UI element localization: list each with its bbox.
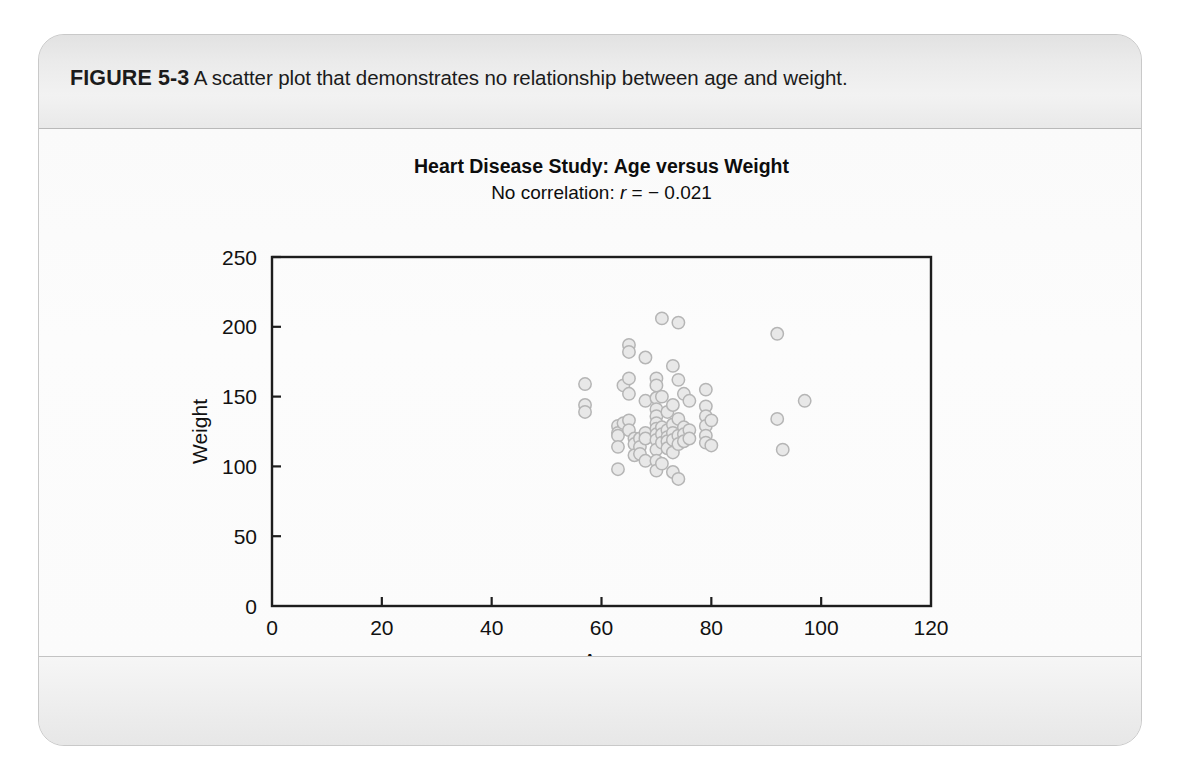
data-point xyxy=(705,414,717,426)
data-point xyxy=(672,473,684,485)
data-point xyxy=(667,360,679,372)
data-point xyxy=(639,351,651,363)
data-point xyxy=(798,395,810,407)
figure-card: FIGURE 5-3 A scatter plot that demonstra… xyxy=(38,34,1142,746)
data-point xyxy=(656,312,668,324)
data-point xyxy=(705,439,717,451)
data-point xyxy=(771,413,783,425)
data-point xyxy=(656,390,668,402)
figure-number-label: FIGURE 5-3 xyxy=(70,66,189,90)
data-point xyxy=(656,457,668,469)
x-axis-tick-label: 40 xyxy=(480,616,503,639)
data-point xyxy=(771,328,783,340)
data-point xyxy=(672,316,684,328)
x-axis-title: Age xyxy=(583,649,620,656)
y-axis-tick-label: 150 xyxy=(222,385,257,408)
x-axis-tick-label: 100 xyxy=(804,616,839,639)
data-point xyxy=(579,406,591,418)
scatter-plot-svg: Heart Disease Study: Age versus WeightNo… xyxy=(39,129,1142,656)
figure-caption-band: FIGURE 5-3 A scatter plot that demonstra… xyxy=(39,35,1141,129)
chart-title: Heart Disease Study: Age versus Weight xyxy=(414,155,789,177)
scatter-plot: Heart Disease Study: Age versus WeightNo… xyxy=(39,129,1142,656)
data-point xyxy=(683,395,695,407)
data-point xyxy=(612,441,624,453)
figure-plot-band: Heart Disease Study: Age versus WeightNo… xyxy=(39,129,1141,657)
data-point xyxy=(777,443,789,455)
data-point xyxy=(612,463,624,475)
data-point xyxy=(623,372,635,384)
x-axis-tick-label: 0 xyxy=(266,616,278,639)
y-axis-tick-label: 0 xyxy=(245,595,257,618)
x-axis-tick-label: 60 xyxy=(590,616,613,639)
plot-frame xyxy=(272,257,931,606)
y-axis-title: Weight xyxy=(188,399,211,464)
x-axis-tick-label: 120 xyxy=(913,616,948,639)
data-point xyxy=(623,346,635,358)
y-axis-tick-label: 50 xyxy=(234,525,257,548)
x-axis-tick-label: 20 xyxy=(370,616,393,639)
data-point xyxy=(683,432,695,444)
data-point xyxy=(623,388,635,400)
data-point xyxy=(672,374,684,386)
x-axis-tick-label: 80 xyxy=(700,616,723,639)
figure-caption-text: A scatter plot that demonstrates no rela… xyxy=(189,66,847,89)
data-point xyxy=(700,383,712,395)
y-axis-tick-label: 100 xyxy=(222,455,257,478)
data-point xyxy=(579,378,591,390)
figure-footer-band xyxy=(39,657,1141,745)
y-axis-tick-label: 250 xyxy=(222,246,257,269)
figure-caption: FIGURE 5-3 A scatter plot that demonstra… xyxy=(70,66,1121,91)
chart-subtitle: No correlation: r = − 0.021 xyxy=(491,182,712,203)
data-point xyxy=(667,399,679,411)
y-axis-tick-label: 200 xyxy=(222,315,257,338)
